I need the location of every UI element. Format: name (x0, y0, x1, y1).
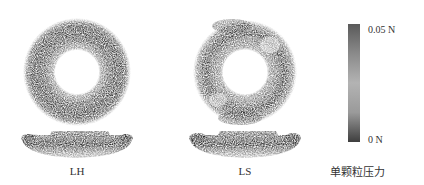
colorbar-title: 单颗粒压力 (322, 163, 392, 179)
figure-canvas (0, 0, 424, 185)
lh-inner-hole (56, 51, 98, 93)
ls-inner-hole (223, 50, 267, 94)
colorbar-min-label: 0 N (368, 134, 383, 145)
panel-label-ls: LS (225, 165, 265, 177)
ls-side-view (189, 131, 301, 158)
colorbar-max-label: 0.05 N (368, 24, 395, 35)
pressure-colorbar (348, 24, 360, 142)
lh-side-view (21, 131, 133, 158)
panel-label-lh: LH (57, 165, 97, 177)
